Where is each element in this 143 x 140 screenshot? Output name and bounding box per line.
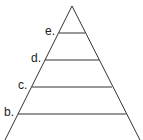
level-label-c: c. <box>18 79 27 91</box>
level-label-e: e. <box>45 25 55 37</box>
pyramid-outline <box>4 6 141 140</box>
level-label-b: b. <box>4 106 14 118</box>
pyramid-diagram <box>0 0 143 140</box>
level-label-d: d. <box>31 52 41 64</box>
